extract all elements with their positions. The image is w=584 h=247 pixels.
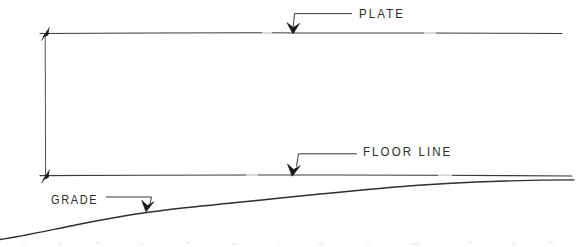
plate-line (40, 33, 562, 34)
wall-height-dimension (42, 28, 50, 184)
floor-line-arrowhead (288, 164, 301, 176)
grade-line (0, 180, 574, 240)
grade-leader (106, 197, 154, 212)
technical-drawing-canvas (0, 0, 584, 247)
drawing-sheet: PLATE FLOOR LINE GRADE (0, 0, 584, 247)
plate-label: PLATE (359, 6, 405, 20)
grade-label: GRADE (51, 192, 98, 206)
grade-arrowhead (142, 200, 154, 211)
floor-line-label: FLOOR LINE (363, 144, 452, 158)
floor-line (40, 175, 572, 176)
floor-line-leader (288, 154, 358, 176)
plate-leader (287, 14, 352, 34)
scan-artifacts (22, 242, 554, 244)
